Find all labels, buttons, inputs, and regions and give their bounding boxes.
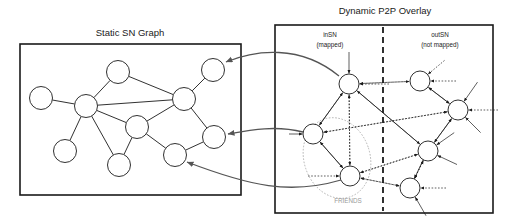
sn-edge xyxy=(94,80,110,97)
p2p-node-p6[interactable] xyxy=(418,141,438,161)
sn-node-sn5[interactable] xyxy=(202,59,225,82)
sn-edge xyxy=(185,142,203,150)
sn-edge xyxy=(97,100,172,105)
p2p-node-p1[interactable] xyxy=(339,74,359,94)
sn-edge xyxy=(92,116,114,155)
p2p-node-p4[interactable] xyxy=(410,71,430,91)
sn-node-sn10[interactable] xyxy=(203,126,226,149)
mapping-arrow-map2 xyxy=(228,128,303,134)
mapping-arrow-map1 xyxy=(226,52,339,76)
p2p-node-group xyxy=(303,71,468,198)
p2p-stub-edge-p5-6 xyxy=(465,117,480,132)
p2p-edge-p3-p2 xyxy=(320,142,341,166)
figure-root: Static SN Graph Dynamic P2P Overlay inSN… xyxy=(0,0,512,224)
sn-node-sn3[interactable] xyxy=(107,61,130,84)
p2p-edge-p6-p5 xyxy=(436,118,452,140)
p2p-node-p3[interactable] xyxy=(340,166,360,186)
p2p-stub-edge-p5-4 xyxy=(464,82,477,101)
p2p-edge-p5-p4 xyxy=(428,87,447,102)
p2p-node-p7[interactable] xyxy=(400,178,420,198)
static-sn-graph-title: Static SN Graph xyxy=(96,27,165,38)
sn-node-sn9[interactable] xyxy=(164,144,187,167)
sn-edge xyxy=(52,100,74,104)
friends-cluster-ellipse xyxy=(293,109,381,207)
sn-node-sn7[interactable] xyxy=(54,140,77,163)
p2p-edge-p6-p1 xyxy=(357,91,418,143)
friends-cluster-label: FRIENDS xyxy=(334,197,362,204)
architecture-diagram: Static SN Graph Dynamic P2P Overlay inSN… xyxy=(0,0,512,224)
p2p-edge-group xyxy=(319,81,452,185)
p2p-edge-p3-p1 xyxy=(349,94,350,162)
p2p-stub-edge-p6-7 xyxy=(437,133,455,145)
insn-section-label-line2: (mapped) xyxy=(317,41,344,49)
sn-edge xyxy=(70,116,81,140)
p2p-edge-p2-p5 xyxy=(326,112,448,132)
sn-edge xyxy=(124,137,132,154)
outsn-section-label-line2: (not mapped) xyxy=(421,41,458,49)
p2p-stub-edge-p4-2 xyxy=(428,60,444,74)
sn-node-sn1[interactable] xyxy=(30,87,53,110)
sn-node-sn8[interactable] xyxy=(108,154,131,177)
sn-edge xyxy=(146,134,165,148)
sn-edge xyxy=(97,110,127,122)
outsn-section-label-line1: outSN xyxy=(431,31,449,38)
sn-edge xyxy=(147,105,174,121)
sn-edge xyxy=(129,76,174,94)
dynamic-p2p-overlay-panel: Dynamic P2P Overlay inSN (mapped) outSN … xyxy=(275,5,498,216)
mapping-arrow-map3 xyxy=(187,162,341,187)
p2p-node-p2[interactable] xyxy=(303,124,323,144)
sn-node-group xyxy=(30,59,226,177)
sn-edge xyxy=(191,108,207,128)
p2p-stub-edge-p6-8 xyxy=(438,155,457,164)
p2p-edge-p3-p6 xyxy=(363,154,418,172)
insn-section-label-line1: inSN xyxy=(323,31,337,38)
sn-node-sn2[interactable] xyxy=(75,95,98,118)
sn-node-sn4[interactable] xyxy=(173,88,196,111)
dynamic-p2p-overlay-title: Dynamic P2P Overlay xyxy=(339,5,432,16)
sn-node-sn6[interactable] xyxy=(126,116,149,139)
sn-edge xyxy=(192,78,205,91)
p2p-node-p5[interactable] xyxy=(448,100,468,120)
